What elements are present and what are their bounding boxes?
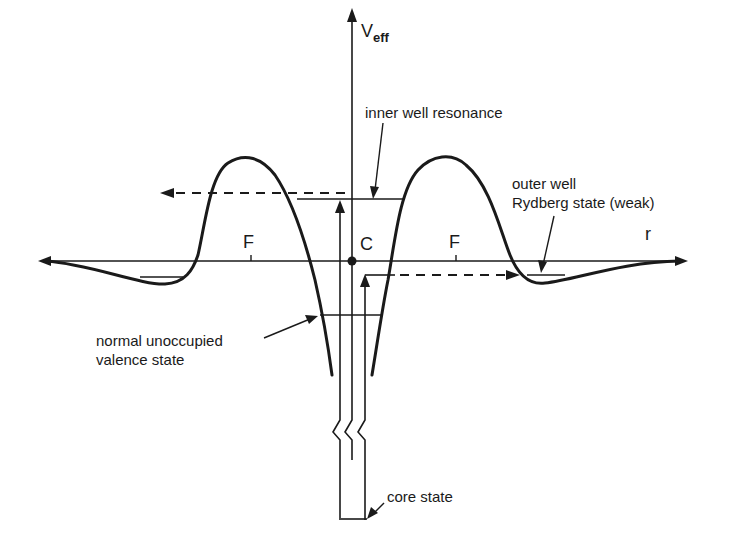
excitation-arrow-rydberg-head: [360, 274, 370, 287]
pointer-valence-head: [305, 315, 318, 324]
center-label: C: [360, 234, 373, 254]
valence-label-2: valence state: [96, 351, 184, 368]
pointer-inner-resonance: [375, 123, 383, 190]
r-axis: [38, 256, 688, 266]
center-point: [348, 257, 357, 266]
valence-label-1: normal unoccupied: [96, 332, 223, 349]
potential-diagram: Veff r C F F inner well resonance outer …: [0, 0, 747, 551]
right-f-label: F: [449, 232, 460, 252]
pointer-rydberg: [543, 216, 554, 265]
left-f-label: F: [243, 232, 254, 252]
veff-label: Veff: [361, 21, 390, 45]
pointer-valence: [264, 319, 310, 338]
veff-axis-arrow: [347, 8, 357, 22]
axis-break-zigzags: [333, 410, 372, 450]
outer-well-label-2: Rydberg state (weak): [512, 194, 655, 211]
pointer-rydberg-head: [538, 260, 547, 273]
veff-axis: [347, 8, 357, 460]
outer-well-label-1: outer well: [512, 175, 576, 192]
core-label: core state: [387, 488, 453, 505]
excitation-arrow-inner-head: [335, 200, 345, 213]
pointer-core-head: [367, 507, 378, 519]
tunnel-arrow-left-head: [160, 188, 174, 198]
r-label: r: [645, 224, 651, 244]
pointer-inner-resonance-head: [370, 186, 379, 199]
inner-well-label: inner well resonance: [365, 104, 503, 121]
